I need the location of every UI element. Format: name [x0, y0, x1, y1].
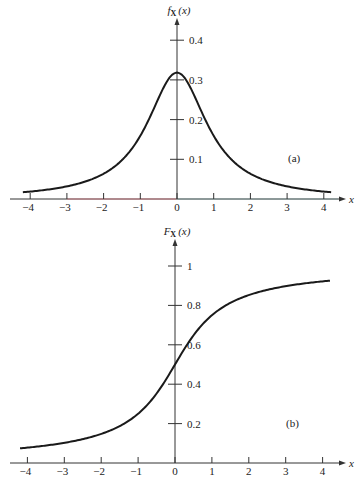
y-tick-label: 0.1: [189, 153, 203, 165]
x-tick-label: 4: [321, 201, 327, 213]
y-tick-label: 0.4: [189, 34, 203, 46]
x-tick-label: −4: [20, 465, 32, 477]
x-tick-label: −2: [93, 465, 105, 477]
x-tick-label: 3: [283, 465, 289, 477]
x-tick-label: −1: [130, 465, 142, 477]
y-tick-labels: 0.20.40.60.81: [187, 260, 201, 430]
x-tick-label: −3: [59, 201, 71, 213]
y-tick-label: 0.2: [189, 114, 203, 126]
x-tick-labels: −4−3−2−101234: [22, 201, 327, 213]
y-axis-title: FX(x): [163, 225, 191, 239]
x-axis-title: x: [348, 193, 354, 205]
y-axis-title: fX(x): [167, 4, 190, 18]
x-tick-label: 4: [320, 465, 326, 477]
panel-a-density-plot: −4−3−2−101234 0.10.20.30.4 fX(x) x (a): [10, 4, 354, 213]
x-tick-label: −1: [132, 201, 144, 213]
x-tick-label: −4: [22, 201, 34, 213]
chart-figure: −4−3−2−101234 0.10.20.30.4 fX(x) x (a) −…: [0, 0, 359, 488]
x-tick-label: 0: [174, 201, 180, 213]
y-tick-label: 0.2: [187, 418, 201, 430]
panel-b-cdf-plot: −4−3−2−101234 0.20.40.60.81 FX(x) x (b): [10, 225, 354, 477]
x-tick-labels: −4−3−2−101234: [20, 465, 326, 477]
y-tick-label: 0.3: [189, 74, 203, 86]
y-tick-label: 0.8: [187, 299, 201, 311]
y-tick-label: 1: [187, 260, 193, 272]
x-tick-label: 0: [172, 465, 178, 477]
panel-label: (a): [288, 152, 301, 165]
x-tick-label: 1: [211, 201, 217, 213]
x-tick-label: −2: [96, 201, 108, 213]
y-axis: [168, 239, 182, 463]
x-axis-title: x: [348, 457, 354, 469]
x-tick-label: 2: [248, 201, 254, 213]
y-axis: [170, 18, 184, 199]
x-tick-label: −3: [56, 465, 68, 477]
x-tick-label: 1: [209, 465, 215, 477]
x-tick-label: 2: [246, 465, 252, 477]
x-tick-label: 3: [284, 201, 290, 213]
y-tick-label: 0.4: [187, 378, 201, 390]
panel-label: (b): [286, 417, 299, 430]
